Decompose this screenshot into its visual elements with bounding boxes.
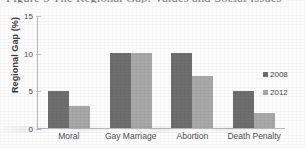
y-tick-label: 10	[24, 49, 33, 58]
bar-2008[interactable]	[48, 91, 69, 128]
bar-2012[interactable]	[254, 113, 275, 128]
x-axis-labels: MoralGay MarriageAbortionDeath Penalty	[38, 131, 285, 141]
bar-2008[interactable]	[110, 53, 131, 128]
legend-swatch-icon	[263, 72, 268, 77]
y-tick-label: 0	[29, 125, 33, 134]
bar-2008[interactable]	[233, 91, 254, 128]
bar-groups	[38, 16, 285, 128]
bar-2008[interactable]	[171, 53, 192, 128]
y-tick-label: 5	[29, 87, 33, 96]
figure-caption: Figure 3 The Regional Gap: Values and So…	[6, 0, 305, 3]
x-axis-label: Moral	[38, 131, 100, 141]
x-axis-label: Abortion	[162, 131, 224, 141]
legend-swatch-icon	[263, 90, 268, 95]
legend-label: 2008	[270, 70, 288, 79]
y-tick-0: 0	[37, 129, 42, 130]
y-tick-label: 15	[24, 12, 33, 21]
bar-group	[162, 16, 224, 128]
chart-legend: 20082012	[263, 70, 305, 106]
y-axis-title: Regional Gap (%)	[10, 5, 20, 105]
x-axis-label: Death Penalty	[223, 131, 285, 141]
bar-group	[38, 16, 100, 128]
bar-group	[100, 16, 162, 128]
legend-item-2012[interactable]: 2012	[263, 88, 305, 97]
bar-2012[interactable]	[69, 106, 90, 128]
bar-2012[interactable]	[131, 53, 152, 128]
plot-area: 051015	[37, 16, 285, 129]
figure-container: Figure 3 The Regional Gap: Values and So…	[0, 0, 305, 148]
x-axis-line	[37, 128, 285, 129]
legend-item-2008[interactable]: 2008	[263, 70, 305, 79]
bar-2012[interactable]	[192, 76, 213, 128]
y-tick-mark	[36, 129, 41, 130]
x-axis-label: Gay Marriage	[100, 131, 162, 141]
legend-label: 2012	[270, 88, 288, 97]
